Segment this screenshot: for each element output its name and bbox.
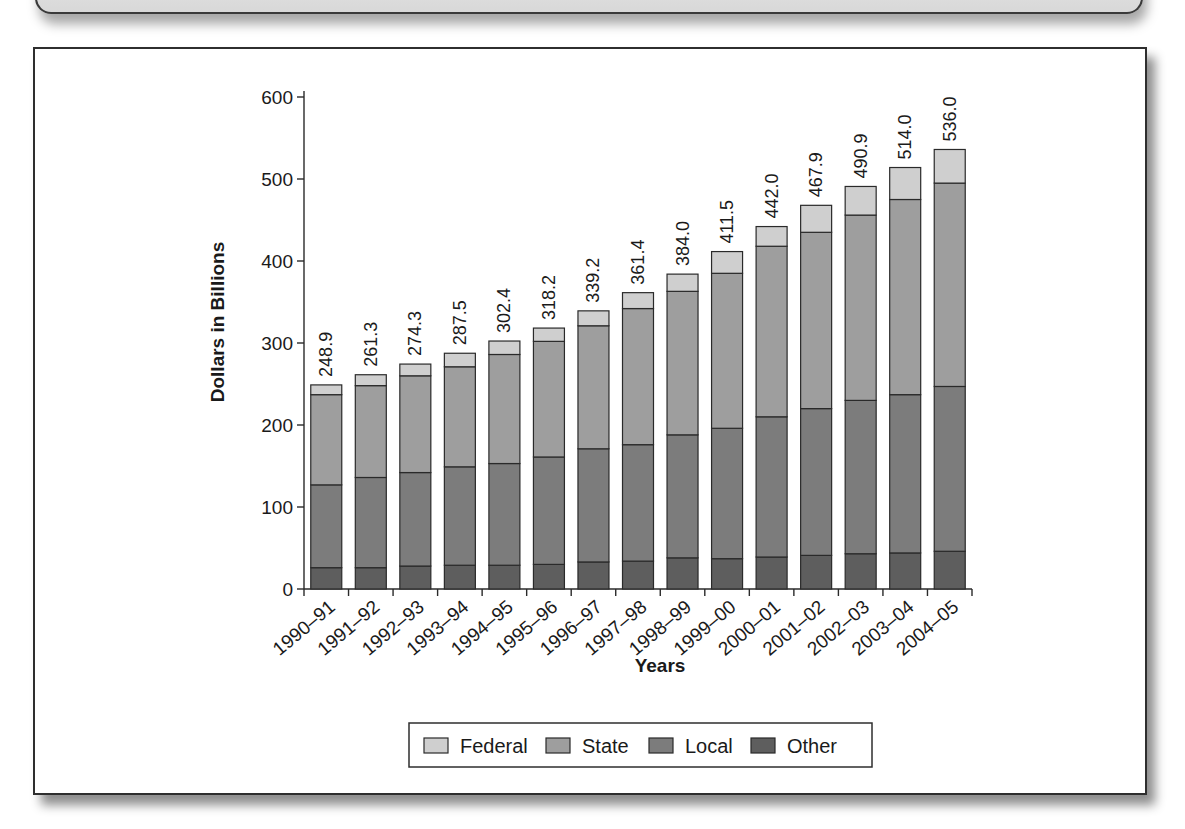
x-axis-title: Years (635, 655, 686, 676)
bar-stack (533, 328, 564, 589)
bar-segment-federal (623, 293, 654, 309)
bar-stack (355, 375, 386, 589)
bar-segment-other (667, 558, 698, 589)
bar-segment-federal (533, 328, 564, 341)
bar-segment-other (311, 568, 342, 589)
bar-segment-local (533, 457, 564, 564)
bar-segment-state (934, 183, 965, 386)
bar-stack (845, 186, 876, 589)
bar-segment-local (355, 477, 386, 567)
bar-stack (489, 341, 520, 589)
bar-segment-federal (934, 149, 965, 183)
bar-segment-state (400, 376, 431, 473)
bar-segment-local (489, 464, 520, 566)
bar-total-label: 339.2 (583, 258, 603, 303)
bar-segment-federal (801, 205, 832, 232)
bar-segment-local (845, 400, 876, 553)
bar-stack (890, 168, 921, 589)
bar-stack (801, 205, 832, 589)
bar-segment-state (667, 291, 698, 435)
x-axis: 1990–911991–921992–931993–941994–951995–… (269, 589, 972, 660)
bar-segment-local (623, 445, 654, 561)
bar-total-label: 490.9 (851, 133, 871, 178)
bar-stack (311, 385, 342, 589)
bar-segment-federal (311, 385, 342, 395)
bar-segment-local (756, 417, 787, 557)
bar-segment-state (489, 354, 520, 463)
legend: FederalStateLocalOther (409, 723, 872, 767)
bar-segment-state (712, 273, 743, 428)
bar-total-label: 274.3 (405, 311, 425, 356)
bar-total-label: 302.4 (494, 288, 514, 333)
bar-total-label: 411.5 (717, 200, 737, 244)
bar-total-label: 384.0 (673, 221, 693, 266)
stacked-bar-chart: 0100200300400500600 1990–911991–921992–9… (0, 0, 1185, 829)
legend-label-federal: Federal (460, 735, 528, 757)
bar-segment-federal (667, 274, 698, 291)
bar-segment-state (355, 386, 386, 478)
bar-segment-other (355, 568, 386, 589)
bar-segment-other (623, 561, 654, 589)
bar-segment-state (801, 232, 832, 408)
bar-segment-state (845, 215, 876, 400)
bar-stack (934, 149, 965, 589)
bar-segment-other (934, 551, 965, 589)
y-tick-label: 200 (261, 415, 293, 436)
bar-segment-local (934, 386, 965, 551)
bar-segment-federal (845, 186, 876, 215)
bar-segment-state (890, 200, 921, 395)
bar-segment-federal (444, 353, 475, 367)
bar-total-label: 361.4 (628, 240, 648, 285)
legend-swatch-local (649, 738, 673, 753)
bar-total-label: 514.0 (895, 114, 915, 159)
y-tick-label: 300 (261, 333, 293, 354)
legend-label-other: Other (787, 735, 837, 757)
bar-segment-federal (890, 168, 921, 200)
bar-total-label: 248.9 (316, 332, 336, 377)
bar-stack (667, 274, 698, 589)
bar-segment-other (756, 557, 787, 589)
bar-segment-other (444, 565, 475, 589)
bar-segment-other (533, 564, 564, 589)
y-tick-label: 400 (261, 251, 293, 272)
bar-segment-state (756, 246, 787, 417)
bar-total-label: 287.5 (450, 300, 470, 345)
bar-segment-state (578, 326, 609, 449)
legend-label-state: State (582, 735, 629, 757)
y-axis-title: Dollars in Billions (207, 242, 228, 402)
bar-total-label: 442.0 (762, 174, 782, 219)
bar-segment-federal (712, 252, 743, 274)
y-tick-label: 500 (261, 169, 293, 190)
bar-segment-local (400, 473, 431, 566)
bar-total-label: 318.2 (539, 275, 559, 320)
bar-segment-federal (400, 364, 431, 376)
bar-total-label: 536.0 (940, 96, 960, 141)
bar-segment-federal (489, 341, 520, 354)
bar-segment-federal (578, 311, 609, 326)
bar-stack (444, 353, 475, 589)
bar-segment-federal (756, 227, 787, 247)
bar-segment-local (311, 485, 342, 568)
bar-segment-state (623, 309, 654, 445)
y-tick-label: 600 (261, 87, 293, 108)
bar-segment-state (444, 367, 475, 467)
y-axis: 0100200300400500600 (261, 87, 304, 600)
bar-segment-other (712, 559, 743, 589)
bar-segment-local (444, 467, 475, 565)
bar-segment-other (890, 553, 921, 589)
legend-swatch-other (751, 738, 775, 753)
bar-total-label: 467.9 (806, 152, 826, 197)
bar-segment-local (667, 435, 698, 558)
y-tick-label: 0 (282, 579, 293, 600)
bar-segment-other (400, 566, 431, 589)
bar-segment-other (801, 555, 832, 589)
bar-segment-local (890, 395, 921, 553)
bar-segment-local (712, 428, 743, 558)
bar-segment-local (578, 449, 609, 562)
bar-stack (712, 252, 743, 589)
bar-segment-state (311, 395, 342, 485)
bar-segment-other (489, 565, 520, 589)
bar-total-label: 261.3 (361, 322, 381, 367)
bar-stack (623, 293, 654, 589)
bar-segment-local (801, 409, 832, 556)
